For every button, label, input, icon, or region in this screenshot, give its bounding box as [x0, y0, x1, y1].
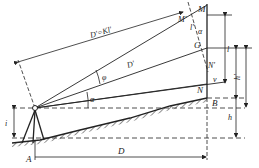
instrument-vertical-dashed: [18, 60, 35, 108]
label-M-prime: M': [177, 15, 187, 24]
label-D: D: [117, 146, 125, 156]
label-i: i: [5, 119, 7, 128]
label-h: h: [228, 113, 232, 122]
label-G: G: [194, 40, 201, 50]
alpha-arc: [87, 92, 88, 108]
label-alpha-right: α: [198, 27, 203, 36]
label-D-prime: D': [125, 59, 136, 70]
label-h-prime: h': [233, 74, 242, 80]
phi-arc: [96, 70, 100, 84]
label-phi: φ: [102, 73, 107, 82]
label-l-prime: l': [190, 23, 194, 32]
label-A: A: [25, 154, 32, 164]
label-M: M: [197, 4, 206, 14]
label-l: l: [227, 45, 230, 54]
label-N-prime: N': [207, 61, 215, 70]
tripod-leg-right: [35, 110, 44, 140]
stadia-diagram: M M' l' α G N' v N B D'=Kl' D' φ α i A D…: [0, 0, 259, 168]
label-v: v: [213, 75, 217, 84]
label-N: N: [196, 85, 204, 95]
label-D-prime-eq: D'=Kl': [88, 25, 113, 40]
instrument-icon: [33, 106, 38, 111]
label-B: B: [212, 98, 218, 108]
